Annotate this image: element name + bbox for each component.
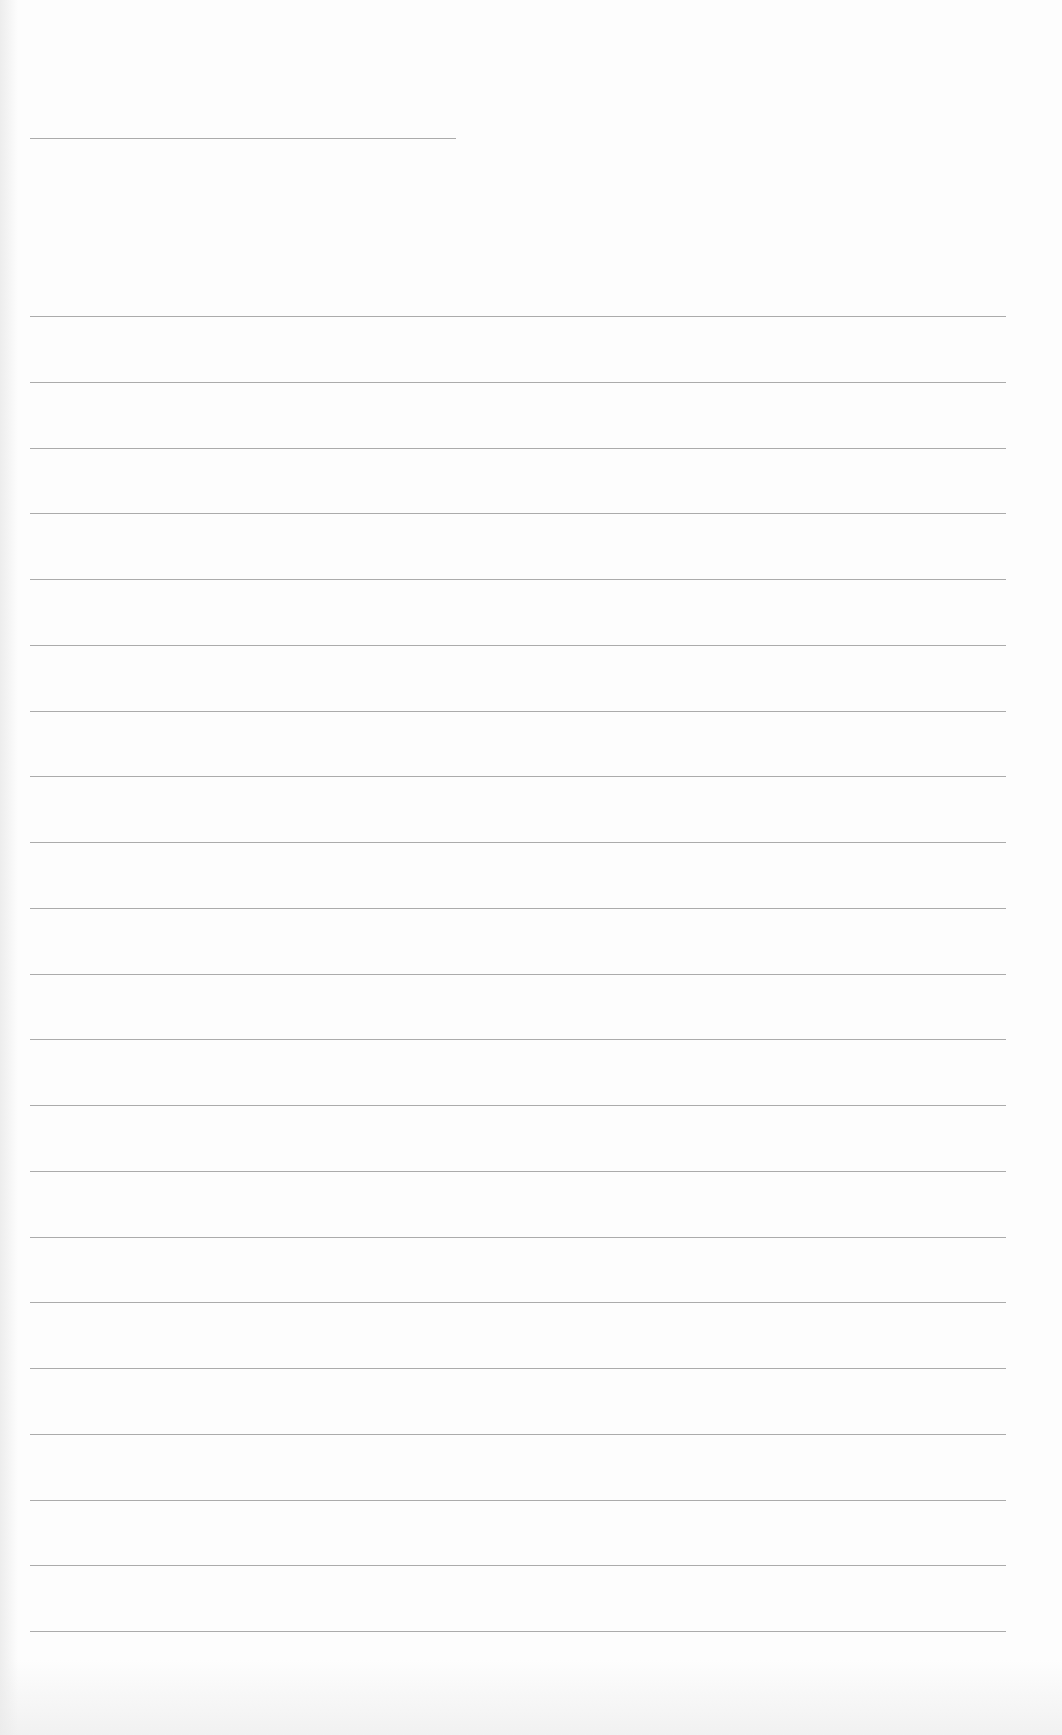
- ruled-line: [30, 908, 1006, 909]
- ruled-line: [30, 1565, 1006, 1566]
- ruled-line: [30, 1237, 1006, 1238]
- ruled-line: [30, 1631, 1006, 1632]
- ruled-line: [30, 842, 1006, 843]
- ruled-line: [30, 513, 1006, 514]
- ruled-line: [30, 1105, 1006, 1106]
- ruled-line: [30, 1434, 1006, 1435]
- ruled-line: [30, 1171, 1006, 1172]
- ruled-line: [30, 316, 1006, 317]
- ruled-line: [30, 1500, 1006, 1501]
- ruled-line: [30, 579, 1006, 580]
- ruled-line: [30, 1368, 1006, 1369]
- ruled-line: [30, 974, 1006, 975]
- ruled-line: [30, 1302, 1006, 1303]
- ruled-line: [30, 776, 1006, 777]
- ruled-lines: [0, 0, 1062, 1735]
- ruled-line: [30, 711, 1006, 712]
- lined-paper-sheet: [0, 0, 1062, 1735]
- ruled-line: [30, 448, 1006, 449]
- ruled-line: [30, 1039, 1006, 1040]
- ruled-line: [30, 382, 1006, 383]
- ruled-line: [30, 645, 1006, 646]
